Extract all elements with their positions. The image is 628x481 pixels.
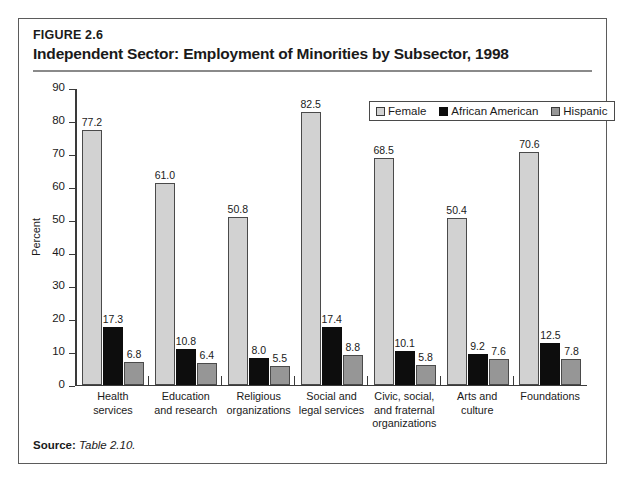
bar-slot: 77.2	[82, 89, 102, 385]
bar-value-label: 68.5	[373, 144, 393, 156]
bar[interactable]	[270, 366, 290, 384]
bar-value-label: 50.8	[228, 203, 248, 215]
bar-slot: 5.8	[416, 89, 436, 385]
bar-slot: 70.6	[519, 89, 539, 385]
bar[interactable]	[395, 351, 415, 384]
bar-value-label: 10.8	[176, 335, 196, 347]
source-label: Source:	[33, 439, 76, 451]
bar[interactable]	[155, 183, 175, 384]
bar[interactable]	[561, 359, 581, 385]
x-axis-category-label: Religiousorganizations	[222, 390, 295, 431]
y-tick: 90	[69, 89, 75, 90]
y-tick: 0	[69, 386, 75, 387]
x-axis-category-label: Healthservices	[77, 390, 150, 431]
bar-slot: 17.4	[322, 89, 342, 385]
bar[interactable]	[124, 362, 144, 384]
y-tick-label: 80	[39, 114, 65, 126]
bar-value-label: 6.8	[127, 348, 142, 360]
bar-value-label: 17.4	[322, 313, 342, 325]
bar-slot: 10.1	[395, 89, 415, 385]
bar[interactable]	[322, 327, 342, 384]
y-tick: 10	[69, 353, 75, 354]
bar[interactable]	[416, 365, 436, 384]
figure-title: Independent Sector: Employment of Minori…	[33, 44, 593, 64]
bar[interactable]	[82, 130, 102, 385]
bar[interactable]	[374, 158, 394, 384]
chart-legend: FemaleAfrican AmericanHispanic	[369, 101, 615, 121]
y-tick-label: 0	[39, 378, 65, 390]
bar-slot: 8.8	[343, 89, 363, 385]
bar-value-label: 7.6	[491, 345, 506, 357]
y-tick: 30	[69, 287, 75, 288]
x-axis-category-label: Arts andculture	[441, 390, 514, 431]
x-axis-line	[75, 385, 587, 387]
bar-slot: 5.5	[270, 89, 290, 385]
y-tick: 50	[69, 221, 75, 222]
y-tick-label: 30	[39, 279, 65, 291]
legend-swatch-icon	[376, 107, 385, 116]
y-tick-label: 20	[39, 312, 65, 324]
bar-group: 68.510.15.8	[368, 89, 441, 385]
bar[interactable]	[540, 343, 560, 384]
chart-plot-area: Percent 0102030405060708090 77.217.36.86…	[75, 89, 587, 386]
bar-group: 82.517.48.8	[295, 89, 368, 385]
title-divider	[33, 70, 592, 72]
bar-group: 77.217.36.8	[77, 89, 150, 385]
legend-item[interactable]: Female	[376, 105, 426, 117]
y-tick-label: 90	[39, 81, 65, 93]
legend-item[interactable]: Hispanic	[551, 105, 607, 117]
y-tick: 70	[69, 155, 75, 156]
bar[interactable]	[301, 112, 321, 384]
bar-value-label: 6.4	[200, 349, 215, 361]
bar[interactable]	[176, 349, 196, 385]
bar-value-label: 10.1	[394, 337, 414, 349]
bar-slot: 12.5	[540, 89, 560, 385]
legend-item[interactable]: African American	[439, 105, 538, 117]
bar[interactable]	[103, 327, 123, 384]
bar[interactable]	[447, 218, 467, 384]
bar-slot: 8.0	[249, 89, 269, 385]
legend-swatch-icon	[551, 107, 560, 116]
bar[interactable]	[468, 354, 488, 384]
source-value: Table 2.10.	[79, 439, 135, 451]
y-tick-label: 70	[39, 147, 65, 159]
y-tick-label: 60	[39, 180, 65, 192]
x-axis-category-label: Educationand research	[149, 390, 222, 431]
bar-value-label: 50.4	[446, 204, 466, 216]
bar-slot: 50.4	[447, 89, 467, 385]
bar-value-label: 8.0	[251, 344, 266, 356]
y-tick: 80	[69, 122, 75, 123]
bar-value-label: 17.3	[103, 313, 123, 325]
y-tick-label: 10	[39, 345, 65, 357]
bar-slot: 68.5	[374, 89, 394, 385]
bar-slot: 6.8	[124, 89, 144, 385]
y-tick: 20	[69, 320, 75, 321]
legend-item-label: Hispanic	[563, 105, 607, 117]
bar[interactable]	[197, 363, 217, 384]
bar[interactable]	[519, 152, 539, 385]
bar-value-label: 7.8	[564, 345, 579, 357]
bar[interactable]	[489, 359, 509, 384]
y-tick: 40	[69, 254, 75, 255]
x-axis-category-label: Social andlegal services	[295, 390, 368, 431]
bar[interactable]	[249, 358, 269, 384]
x-axis-category-label: Civic, social,and fraternalorganizations	[368, 390, 441, 431]
bar-value-label: 5.8	[418, 351, 433, 363]
bar-value-label: 82.5	[301, 98, 321, 110]
source-note: Source: Table 2.10.	[33, 438, 136, 452]
bar-value-label: 12.5	[540, 329, 560, 341]
bar-group: 50.88.05.5	[222, 89, 295, 385]
bar[interactable]	[228, 217, 248, 385]
bar-slot: 50.8	[228, 89, 248, 385]
bar[interactable]	[343, 355, 363, 384]
bar-value-label: 9.2	[470, 340, 485, 352]
figure-frame: FIGURE 2.6 Independent Sector: Employmen…	[18, 18, 607, 464]
bar-groups: 77.217.36.861.010.86.450.88.05.582.517.4…	[77, 89, 588, 385]
bar-slot: 61.0	[155, 89, 175, 385]
bar-value-label: 61.0	[155, 169, 175, 181]
bar-slot: 6.4	[197, 89, 217, 385]
figure-header: FIGURE 2.6 Independent Sector: Employmen…	[33, 27, 593, 64]
bar-slot: 82.5	[301, 89, 321, 385]
y-tick-label: 40	[39, 246, 65, 258]
bar-value-label: 8.8	[345, 341, 360, 353]
